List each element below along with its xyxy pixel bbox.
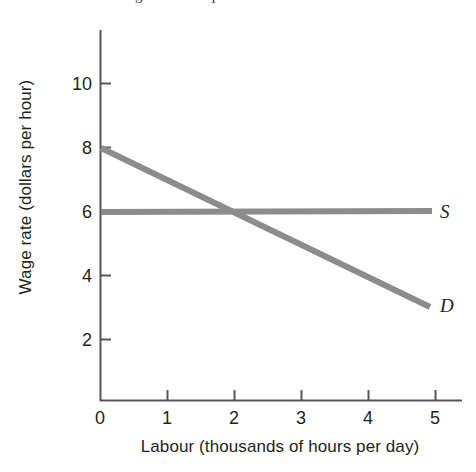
- y-axis-title: Wage rate (dollars per hour): [16, 22, 36, 352]
- series-line-S: [101, 211, 432, 212]
- x-tick-label-2: 2: [219, 409, 249, 427]
- x-axis-ticks: [168, 390, 436, 401]
- x-tick-label-4: 4: [353, 409, 383, 427]
- series-line-D: [101, 148, 430, 307]
- series-label-S: S: [440, 202, 450, 221]
- x-axis-title: Labour (thousands of hours per day): [100, 437, 460, 457]
- x-tick-label-0: 0: [85, 409, 115, 427]
- series-label-D: D: [440, 296, 454, 315]
- y-tick-label-4: 4: [58, 267, 92, 285]
- y-tick-label-8: 8: [58, 139, 92, 157]
- x-tick-label-1: 1: [152, 409, 182, 427]
- figure-container: figure: A competitive labour market 10: [0, 0, 476, 472]
- y-tick-label-6: 6: [58, 203, 92, 221]
- y-tick-label-2: 2: [58, 331, 92, 349]
- y-tick-label-10: 10: [58, 75, 92, 93]
- x-tick-label-5: 5: [420, 409, 450, 427]
- chart-plot-area: [0, 0, 476, 472]
- x-tick-label-3: 3: [286, 409, 316, 427]
